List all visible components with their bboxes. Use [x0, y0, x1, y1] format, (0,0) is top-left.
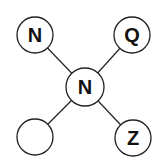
- node-label: Q: [124, 24, 140, 46]
- node-top-left: N: [17, 17, 53, 53]
- node-bottom-right: Z: [115, 120, 151, 156]
- node-center: N: [66, 68, 104, 106]
- node-label: N: [28, 24, 42, 46]
- node-top-right: Q: [114, 17, 150, 53]
- node-bottom-left-empty: [17, 119, 53, 155]
- letter-diagram: N Q N Z: [0, 0, 157, 166]
- node-label: N: [78, 76, 92, 98]
- node-label: Z: [127, 127, 139, 149]
